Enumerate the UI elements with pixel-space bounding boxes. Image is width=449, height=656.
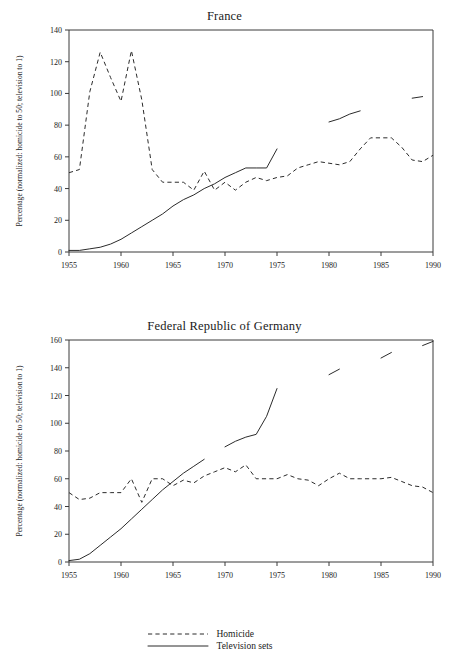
y-tick-label: 80 — [54, 121, 62, 130]
x-tick-label: 1965 — [165, 261, 181, 270]
y-tick-label: 60 — [54, 153, 62, 162]
y-tick-label: 160 — [50, 336, 62, 345]
x-tick-label: 1985 — [373, 571, 389, 580]
x-tick-label: 1970 — [217, 571, 233, 580]
x-tick-label: 1975 — [269, 261, 285, 270]
y-tick-label: 100 — [50, 89, 62, 98]
y-tick-label: 140 — [50, 26, 62, 35]
y-tick-label: 40 — [54, 185, 62, 194]
y-tick-label: 140 — [50, 364, 62, 373]
y-axis-label: Percentage (normalized: homicide to 50; … — [15, 365, 24, 536]
chart-title-germany: Federal Republic of Germany — [0, 310, 449, 334]
x-tick-label: 1955 — [61, 261, 77, 270]
series-television-sets — [329, 369, 339, 375]
chart-panel-germany: Federal Republic of Germany 020406080100… — [0, 310, 449, 620]
x-tick-label: 1960 — [113, 261, 129, 270]
series-television-sets — [412, 97, 422, 99]
y-tick-label: 20 — [54, 216, 62, 225]
legend-label-homicide: Homicide — [217, 629, 303, 639]
x-tick-label: 1990 — [425, 261, 441, 270]
chart-title-france: France — [0, 0, 449, 24]
legend-label-television: Television sets — [217, 641, 303, 651]
x-tick-label: 1970 — [217, 261, 233, 270]
legend-item-homicide: Homicide — [147, 629, 303, 639]
x-tick-label: 1955 — [61, 571, 77, 580]
legend-key-solid-icon — [147, 641, 209, 651]
plot-frame — [69, 340, 433, 562]
plot-area-germany: 0204060801001201401601955196019651970197… — [0, 334, 449, 604]
series-television-sets — [225, 389, 277, 447]
series-television-sets — [69, 459, 204, 560]
y-axis-label: Percentage (normalized: homicide to 50; … — [15, 55, 24, 226]
series-television-sets — [381, 352, 391, 358]
x-tick-label: 1980 — [321, 571, 337, 580]
series-television-sets — [329, 111, 360, 122]
y-tick-label: 120 — [50, 58, 62, 67]
plot-area-france: 0204060801001201401955196019651970197519… — [0, 24, 449, 294]
y-tick-label: 60 — [54, 475, 62, 484]
x-tick-label: 1990 — [425, 571, 441, 580]
x-tick-label: 1960 — [113, 571, 129, 580]
y-tick-label: 20 — [54, 530, 62, 539]
y-tick-label: 80 — [54, 447, 62, 456]
series-homicide — [69, 465, 433, 502]
chart-svg-germany: 0204060801001201401601955196019651970197… — [0, 334, 449, 604]
series-homicide — [69, 51, 433, 191]
legend-key-dashed-icon — [147, 629, 209, 639]
plot-frame — [69, 30, 433, 252]
series-television-sets — [69, 149, 277, 250]
chart-svg-france: 0204060801001201401955196019651970197519… — [0, 24, 449, 294]
x-tick-label: 1980 — [321, 261, 337, 270]
legend-item-television: Television sets — [147, 641, 303, 651]
series-television-sets — [423, 341, 433, 345]
y-tick-label: 120 — [50, 392, 62, 401]
x-tick-label: 1985 — [373, 261, 389, 270]
y-tick-label: 0 — [58, 248, 62, 257]
x-tick-label: 1975 — [269, 571, 285, 580]
chart-panel-france: France 020406080100120140195519601965197… — [0, 0, 449, 310]
y-tick-label: 0 — [58, 558, 62, 567]
x-tick-label: 1965 — [165, 571, 181, 580]
chart-legend: Homicide Television sets — [0, 620, 449, 656]
y-tick-label: 40 — [54, 503, 62, 512]
y-tick-label: 100 — [50, 419, 62, 428]
